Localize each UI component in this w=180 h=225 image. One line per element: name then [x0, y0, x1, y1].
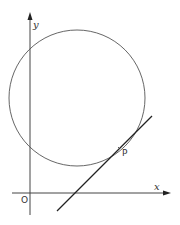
diagram-canvas: y x O P [0, 0, 180, 225]
x-axis-label: x [154, 181, 160, 192]
circle [9, 30, 145, 166]
x-axis-arrow-icon [163, 191, 171, 196]
y-axis-arrow-icon [28, 12, 33, 20]
origin-label: O [21, 195, 28, 205]
tangent-line [57, 116, 152, 211]
point-p-label: P [122, 148, 128, 158]
y-axis-label: y [32, 19, 39, 30]
